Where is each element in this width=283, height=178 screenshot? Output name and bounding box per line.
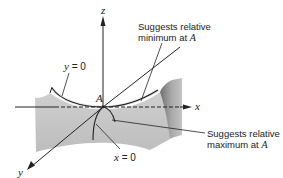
saddle-surface [35,80,182,152]
annotation-relative-minimum: Suggests relative minimum at A [138,21,211,43]
y-equals-0-label: y = 0 [64,61,86,72]
y-axis-label: y [18,167,23,178]
point-a-label: A [96,93,103,104]
x-equals-0-label: x = 0 [114,152,136,163]
x-axis-label: x [195,101,200,112]
annotation-relative-maximum: Suggests relative maximum at A [207,128,280,150]
y-axis-arrowhead [27,161,35,170]
z-axis-label: z [101,5,105,16]
x-axis-arrowhead [183,105,192,110]
saddle-point-diagram: z x y A y = 0 x = 0 Suggests relative mi… [0,0,283,178]
z-axis-arrowhead [101,16,106,26]
leader-y0 [62,73,69,96]
point-a [102,106,105,109]
